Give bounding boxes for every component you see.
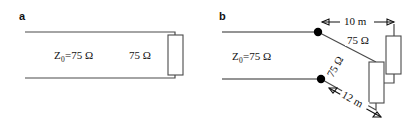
panel-b-lower-junction-dot [317, 75, 325, 83]
panel-b-upper-stub-label-group: 75 Ω [345, 33, 377, 46]
panel-b-upper-stub-label: 75 Ω [347, 34, 369, 46]
panel-b-inner-resistor [369, 62, 384, 103]
panel-b-right-resistor [386, 36, 401, 74]
panel-b-upper-junction-dot [314, 28, 322, 36]
panel-b-impedance-value: =75 Ω [243, 50, 271, 62]
panel-b-letter: b [219, 10, 226, 22]
panel-a-impedance-value: =75 Ω [65, 49, 93, 61]
figure-container: a Z 0 =75 Ω 75 Ω b [0, 0, 419, 128]
panel-b-dimension-10m-label: 10 m [344, 15, 367, 27]
transmission-line-figure: a Z 0 =75 Ω 75 Ω b [0, 0, 419, 128]
panel-a-load-resistor [168, 35, 183, 75]
panel-a-impedance-symbol: Z [54, 49, 61, 61]
panel-a-letter: a [19, 10, 26, 22]
panel-a-load-label: 75 Ω [129, 49, 151, 61]
panel-b-impedance-symbol: Z [232, 50, 239, 62]
